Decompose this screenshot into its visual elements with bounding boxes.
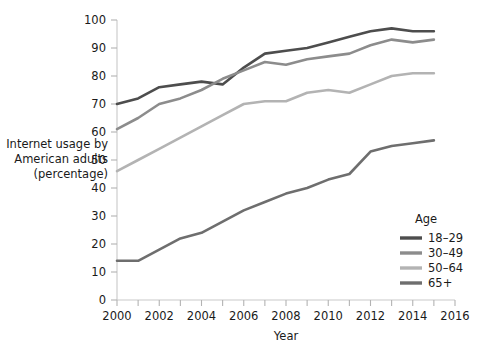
y-tick-label: 100 (84, 13, 106, 27)
y-tick-label: 30 (91, 209, 106, 223)
y-tick-label: 20 (91, 237, 106, 251)
x-tick-label: 2008 (271, 309, 300, 323)
x-tick-label: 2002 (145, 309, 174, 323)
x-tick-label: 2004 (187, 309, 216, 323)
legend-label-1: 30–49 (428, 246, 463, 260)
chart-canvas: 0102030405060708090100200020022004200620… (0, 0, 497, 354)
y-axis-title-line: (percentage) (34, 167, 108, 181)
legend-label-2: 50–64 (428, 261, 463, 275)
legend-label-3: 65+ (428, 276, 452, 290)
y-tick-label: 90 (91, 41, 106, 55)
line-chart: 0102030405060708090100200020022004200620… (0, 0, 497, 354)
y-tick-label: 40 (91, 181, 106, 195)
y-tick-label: 80 (91, 69, 106, 83)
y-tick-label: 10 (91, 265, 106, 279)
x-tick-label: 2014 (398, 309, 427, 323)
x-tick-label: 2000 (102, 309, 131, 323)
legend-title: Age (415, 212, 437, 226)
x-tick-label: 2006 (229, 309, 258, 323)
x-tick-label: 2016 (440, 309, 469, 323)
y-axis-title: Internet usage byAmerican adults(percent… (6, 137, 108, 181)
x-tick-label: 2010 (314, 309, 343, 323)
x-axis-title: Year (273, 329, 299, 343)
series-line-50-64 (117, 73, 434, 171)
y-axis-title-line: Internet usage by (6, 137, 108, 151)
y-axis-title-line: American adults (14, 152, 108, 166)
x-tick-label: 2012 (356, 309, 385, 323)
y-tick-label: 0 (99, 293, 106, 307)
series-line-65- (117, 140, 434, 260)
legend-label-0: 18–29 (428, 231, 463, 245)
y-tick-label: 70 (91, 97, 106, 111)
